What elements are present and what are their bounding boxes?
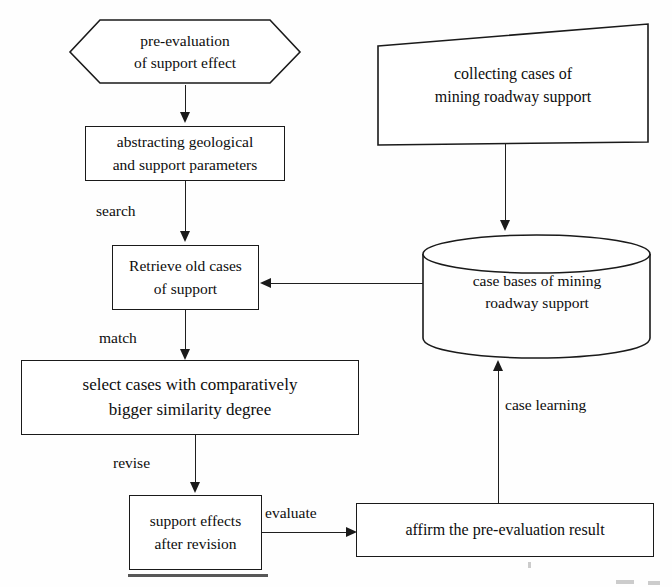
edge-select-to-support-effects-arrowhead <box>190 482 200 493</box>
pre-evaluation-line-2: of support effect <box>134 52 236 74</box>
edge-label-match: match <box>99 330 137 346</box>
edge-collecting-to-casebases-arrowhead <box>500 220 510 231</box>
abstracting-line-1: abstracting geological <box>117 131 253 153</box>
edge-retrieve-to-select-arrowhead <box>180 349 190 360</box>
retrieve-line-1: Retrieve old cases <box>129 255 242 277</box>
node-affirm-result[interactable]: affirm the pre-evaluation result <box>356 503 654 557</box>
scan-artifact-speck-3 <box>648 581 660 585</box>
edge-affirm-to-casebases-arrowhead <box>493 360 503 371</box>
support-effects-line-1: support effects <box>150 510 241 532</box>
edge-casebases-to-retrieve-line <box>271 283 423 284</box>
edge-affirm-to-casebases-line <box>498 371 499 503</box>
pre-evaluation-line-1: pre-evaluation <box>140 30 230 52</box>
retrieve-line-2: of support <box>154 278 217 300</box>
node-pre-evaluation[interactable]: pre-evaluation of support effect <box>78 19 292 85</box>
edge-abstracting-to-retrieve-line <box>185 181 186 232</box>
edge-support-to-affirm-line <box>262 532 347 533</box>
edge-label-search: search <box>96 203 136 219</box>
edge-label-case-learning: case learning <box>505 397 586 413</box>
scan-artifact-speck-1 <box>528 562 531 568</box>
node-retrieve-old-cases[interactable]: Retrieve old cases of support <box>112 245 259 310</box>
collecting-line-1: collecting cases of <box>454 62 572 85</box>
edge-select-to-support-effects-line <box>195 435 196 483</box>
support-effects-line-2: after revision <box>154 533 236 555</box>
case-bases-line-2: roadway support <box>485 292 589 314</box>
edge-label-revise: revise <box>113 455 150 471</box>
edge-abstracting-to-retrieve-arrowhead <box>180 231 190 242</box>
edge-label-evaluate: evaluate <box>265 505 317 521</box>
edge-retrieve-to-select-line <box>185 310 186 350</box>
edge-preeval-to-abstracting-arrowhead <box>180 112 190 123</box>
edge-preeval-to-abstracting-line <box>185 85 186 113</box>
flowchart-canvas: pre-evaluation of support effect abstrac… <box>0 0 672 587</box>
affirm-line-1: affirm the pre-evaluation result <box>405 518 604 541</box>
abstracting-line-2: and support parameters <box>113 154 258 176</box>
edge-casebases-to-retrieve-arrowhead <box>260 278 271 288</box>
node-case-bases[interactable]: case bases of mining roadway support <box>427 248 647 336</box>
node-select-cases[interactable]: select cases with comparatively bigger s… <box>21 360 359 435</box>
node-collecting-cases[interactable]: collecting cases of mining roadway suppo… <box>382 26 644 144</box>
node-support-effects[interactable]: support effects after revision <box>129 495 262 570</box>
scan-artifact-line <box>128 574 268 577</box>
edge-collecting-to-casebases-line <box>505 143 506 221</box>
select-cases-line-2: bigger similarity degree <box>109 398 271 423</box>
select-cases-line-1: select cases with comparatively <box>83 373 298 398</box>
node-abstracting-parameters[interactable]: abstracting geological and support param… <box>85 126 285 181</box>
scan-artifact-speck-2 <box>616 580 634 584</box>
case-bases-line-1: case bases of mining <box>473 270 602 292</box>
collecting-line-2: mining roadway support <box>435 85 591 108</box>
